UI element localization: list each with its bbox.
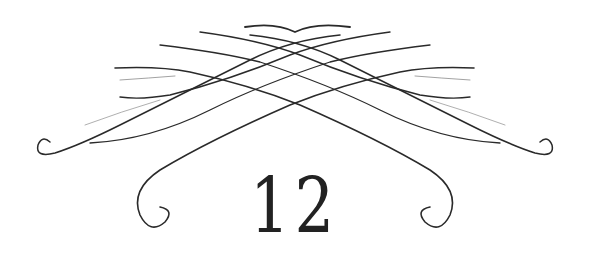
chapter-number: 12 — [53, 168, 536, 244]
chapter-heading-ornament: 12 — [0, 0, 589, 254]
